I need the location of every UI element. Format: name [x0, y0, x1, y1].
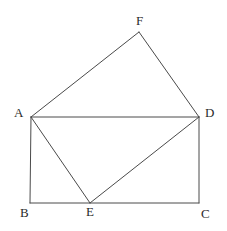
geometry-figure: A B C D E F [0, 0, 227, 231]
side-AE [31, 117, 90, 203]
figure-line-art [0, 0, 227, 231]
vertex-label-B: B [20, 206, 29, 219]
vertex-label-D: D [205, 106, 214, 119]
vertex-label-E: E [86, 205, 94, 218]
segment-group [30, 32, 199, 203]
side-AB [30, 117, 31, 203]
side-FD [139, 32, 199, 117]
vertex-label-C: C [201, 207, 210, 220]
side-AF [31, 32, 139, 117]
vertex-label-F: F [136, 14, 143, 27]
vertex-label-A: A [14, 106, 23, 119]
side-ED [90, 117, 199, 203]
